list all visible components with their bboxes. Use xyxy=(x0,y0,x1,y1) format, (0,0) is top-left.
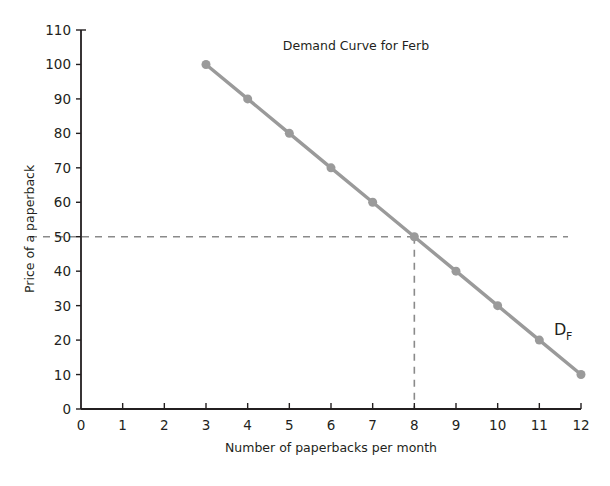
curve-label-main: D xyxy=(554,320,566,339)
guide-lines xyxy=(30,237,568,409)
x-tick-label: 8 xyxy=(410,417,419,433)
curve-label-subscript: F xyxy=(566,330,572,343)
demand-curve-series xyxy=(202,60,586,379)
y-tick-label: 70 xyxy=(54,160,71,176)
y-tick-label: 20 xyxy=(54,332,71,348)
x-tick-label-group: 0123456789101112 xyxy=(77,417,590,433)
data-point xyxy=(243,94,252,103)
x-tick-label: 2 xyxy=(160,417,169,433)
data-point xyxy=(368,198,377,207)
x-tick-label: 11 xyxy=(531,417,548,433)
x-tick-label: 4 xyxy=(243,417,252,433)
y-tick-label: 100 xyxy=(45,56,71,72)
data-point xyxy=(410,232,419,241)
y-axis: 0102030405060708090100110 Price of a pap… xyxy=(22,22,86,417)
x-tick-label: 3 xyxy=(202,417,211,433)
y-axis-title: Price of a paperback xyxy=(22,164,37,293)
y-tick-label: 110 xyxy=(45,22,71,38)
chart-title: Demand Curve for Ferb xyxy=(283,38,429,53)
x-tick-label: 1 xyxy=(118,417,127,433)
data-point xyxy=(535,336,544,345)
y-tick-label: 90 xyxy=(54,91,71,107)
y-tick-label: 50 xyxy=(54,229,71,245)
y-tick-label: 10 xyxy=(54,367,71,383)
demand-curve-chart: 0102030405060708090100110 Price of a pap… xyxy=(0,0,610,486)
y-tick-label: 80 xyxy=(54,125,71,141)
data-point xyxy=(577,370,586,379)
data-point xyxy=(202,60,211,69)
data-point xyxy=(493,301,502,310)
x-tick-label: 0 xyxy=(77,417,86,433)
y-tick-label: 30 xyxy=(54,298,71,314)
demand-curve-line xyxy=(206,64,581,374)
data-point xyxy=(327,163,336,172)
data-point xyxy=(285,129,294,138)
x-tick-label: 6 xyxy=(327,417,336,433)
y-tick-label: 0 xyxy=(62,401,71,417)
data-point xyxy=(452,267,461,276)
y-tick-label: 40 xyxy=(54,263,71,279)
x-tick-label: 5 xyxy=(285,417,294,433)
y-tick-label-group: 0102030405060708090100110 xyxy=(45,22,71,417)
chart-container: 0102030405060708090100110 Price of a pap… xyxy=(0,0,610,486)
x-tick-label: 10 xyxy=(489,417,506,433)
x-tick-label: 12 xyxy=(572,417,589,433)
x-tick-label: 7 xyxy=(368,417,377,433)
x-axis: 0123456789101112 Number of paperbacks pe… xyxy=(77,403,590,455)
x-axis-title: Number of paperbacks per month xyxy=(225,440,437,455)
x-tick-label: 9 xyxy=(452,417,461,433)
curve-label: D F xyxy=(554,320,572,343)
y-tick-label: 60 xyxy=(54,194,71,210)
